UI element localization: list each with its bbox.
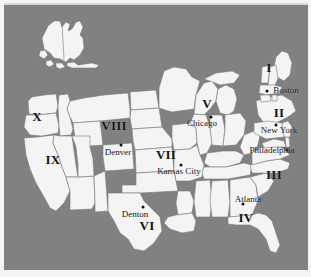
map-figure: IIIIIIIVVVIVIIVIIIIXXBostonNew YorkPhila… [0, 0, 311, 277]
map-canvas: IIIIIIIVVVIVIIVIIIIXXBostonNew YorkPhila… [4, 5, 308, 270]
region-label-vi: VI [140, 218, 155, 234]
city-label-new-york: New York [261, 125, 298, 135]
city-label-atlanta: Atlanta [235, 194, 262, 204]
region-label-iv: IV [239, 210, 254, 226]
city-label-kansas-city: Kansas City [157, 166, 201, 176]
city-label-philadelphia: Philadelphia [250, 145, 295, 155]
paper-edge-top-shadow [0, 3, 311, 5]
city-label-denton: Denton [122, 209, 149, 219]
region-label-v: V [202, 96, 212, 112]
region-label-vii: VII [156, 147, 176, 163]
city-label-boston: Boston [273, 85, 299, 95]
region-label-i: I [266, 60, 271, 76]
city-label-denver: Denver [105, 147, 132, 157]
city-label-chicago: Chicago [187, 118, 217, 128]
region-label-viii: VIII [101, 118, 126, 134]
paper-edge-left [0, 0, 4, 277]
region-label-ix: IX [46, 152, 61, 168]
paper-edge-right [308, 0, 311, 277]
city-marker-boston [266, 90, 269, 93]
region-label-iii: III [266, 167, 282, 183]
region-label-ii: II [274, 105, 285, 121]
paper-edge-bottom [0, 270, 311, 277]
region-label-x: X [32, 109, 42, 125]
map-label-layer: IIIIIIIVVVIVIIVIIIIXXBostonNew YorkPhila… [4, 5, 308, 270]
